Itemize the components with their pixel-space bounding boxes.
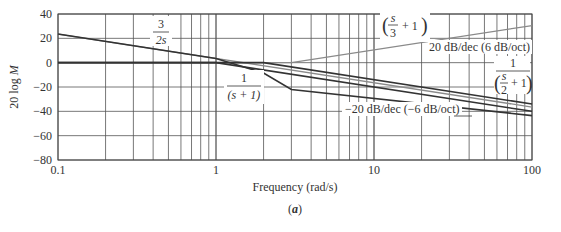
y-axis-label: 20 log M: [7, 64, 21, 108]
annotation-1-over-s-over-2-plus-1: 1 ( s 2 + 1 ): [494, 56, 533, 97]
x-tick-label: 10: [368, 163, 380, 177]
x-axis-label: Frequency (rad/s): [253, 180, 338, 194]
svg-text:20 dB/dec (6 dB/oct): 20 dB/dec (6 dB/oct): [429, 40, 530, 54]
svg-text:): ): [421, 14, 428, 37]
svg-text:): ): [526, 72, 533, 95]
y-tick-label: 20: [40, 31, 52, 45]
y-tick-label: −40: [33, 104, 52, 118]
svg-text:1: 1: [241, 71, 247, 85]
x-tick-label: 1: [213, 163, 219, 177]
svg-text:1: 1: [510, 56, 516, 70]
bode-magnitude-chart: 40200−20−40−60−800.1110100 20 log M Freq…: [0, 0, 561, 232]
series-line-3: [58, 63, 532, 104]
y-tick-label: −80: [33, 153, 52, 167]
svg-text:+ 1: + 1: [402, 19, 418, 33]
y-tick-label: −20: [33, 80, 52, 94]
svg-text:(s + 1): (s + 1): [228, 88, 261, 102]
annotation-slope-down: −20 dB/dec (−6 dB/oct): [342, 102, 472, 116]
svg-text:3: 3: [158, 17, 164, 31]
svg-text:(: (: [494, 72, 501, 95]
x-tick-label: 0.1: [51, 163, 66, 177]
svg-text:(: (: [382, 14, 389, 37]
annotation-s-over-3-plus-1: ( s 3 + 1 ): [380, 10, 430, 42]
y-tick-label: 0: [46, 56, 52, 70]
svg-text:2: 2: [501, 83, 507, 97]
annotation-3-over-2s: 3 2s: [150, 16, 172, 47]
svg-text:s: s: [502, 69, 507, 83]
y-tick-label: −60: [33, 129, 52, 143]
y-tick-label: 40: [40, 7, 52, 21]
annotation-slope-up: 20 dB/dec (6 dB/oct): [428, 40, 532, 54]
svg-text:2s: 2s: [156, 33, 167, 47]
axis-ticks: 40200−20−40−60−800.1110100: [33, 7, 541, 177]
svg-text:−20 dB/dec (−6 dB/oct): −20 dB/dec (−6 dB/oct): [345, 102, 460, 116]
annotation-1-over-s-plus-1: 1 (s + 1): [224, 70, 264, 104]
svg-text:s: s: [391, 11, 396, 25]
x-tick-label: 100: [523, 163, 541, 177]
figure-caption: (a): [288, 202, 302, 216]
svg-text:+ 1: + 1: [511, 76, 527, 90]
svg-text:3: 3: [390, 26, 396, 40]
